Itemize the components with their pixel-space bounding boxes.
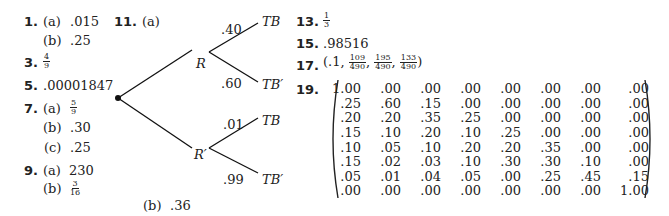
transition-matrix: 1.00 .00 .00 .00 .00 .00 .00 .00 .25 .60… (332, 82, 662, 199)
denominator: 490 (350, 63, 365, 71)
prob-Rprime-TB: .01 (223, 117, 244, 132)
leaf-TBprime-lower: TB′ (262, 172, 283, 187)
matrix-cell: .00 (361, 184, 401, 199)
matrix-row: .15 .02 .03 .10 .30 .30 .10 .00 (332, 155, 649, 170)
matrix-cell: .00 (561, 126, 601, 141)
matrix-cell: .00 (481, 170, 521, 185)
matrix-cell: .00 (361, 82, 401, 97)
matrix-cell: .00 (441, 82, 481, 97)
matrix-cell: .00 (521, 111, 561, 126)
tree-node-R: R (196, 56, 206, 71)
matrix-cell: .05 (361, 140, 401, 155)
matrix-cell: .00 (441, 184, 481, 199)
matrix-cell: .00 (601, 82, 649, 97)
matrix-cell: .00 (441, 97, 481, 112)
problem-17-value: (.1, 109490, 195490, 133490) (323, 54, 422, 71)
matrix-cell: .00 (481, 97, 521, 112)
matrix-row: .15 .10 .20 .10 .25 .00 .00 .00 (332, 126, 649, 141)
denominator: 3 (324, 21, 329, 29)
prob-Rprime-TBprime: .99 (223, 172, 244, 187)
matrix-row: .05 .01 .04 .05 .00 .25 .45 .15 (332, 170, 649, 185)
matrix-cell: .10 (441, 126, 481, 141)
matrix-row: .10 .05 .10 .20 .20 .35 .00 .00 (332, 140, 649, 155)
matrix-cell: .00 (601, 111, 649, 126)
matrix-cell: .25 (332, 97, 361, 112)
leaf-TBprime-upper: TB′ (262, 77, 283, 92)
denominator: 490 (401, 63, 416, 71)
problem-13-number: 13. (296, 14, 319, 29)
matrix-cell: .05 (332, 170, 361, 185)
denominator: 490 (375, 63, 390, 71)
matrix-cell: .10 (561, 155, 601, 170)
matrix-row: .00 .00 .00 .00 .00 .00 .00 1.00 (332, 184, 649, 199)
matrix-cell: .25 (441, 111, 481, 126)
prob-R-TB: .40 (221, 22, 242, 37)
matrix-cell: .00 (481, 184, 521, 199)
problem-15-number: 15. (296, 36, 319, 51)
matrix-cell: .30 (481, 155, 521, 170)
matrix-cell: .05 (441, 170, 481, 185)
matrix-cell: .00 (332, 184, 361, 199)
matrix-cell: .00 (401, 82, 441, 97)
leaf-TB-upper: TB (262, 14, 280, 29)
matrix-cell: .15 (332, 126, 361, 141)
matrix-cell: .60 (361, 97, 401, 112)
matrix-cell: .35 (521, 140, 561, 155)
matrix-cell: .00 (601, 126, 649, 141)
matrix-cell: .20 (401, 126, 441, 141)
leaf-TB-lower: TB (262, 113, 280, 128)
vector-open: (.1, (323, 54, 345, 69)
prob-R-TBprime: .60 (221, 76, 242, 91)
matrix-cell: .45 (561, 170, 601, 185)
matrix-cell: .10 (441, 155, 481, 170)
tree-node-R-prime: R′ (194, 147, 207, 162)
matrix-cell: .00 (481, 82, 521, 97)
matrix-cell: .10 (361, 126, 401, 141)
matrix-cell: .20 (481, 140, 521, 155)
matrix-cell: .10 (332, 140, 361, 155)
matrix-cell: .00 (561, 97, 601, 112)
matrix-cell: .00 (601, 97, 649, 112)
problem-19-number: 19. (296, 82, 319, 97)
matrix-cell: .00 (561, 111, 601, 126)
problem-13-value: 13 (323, 12, 330, 29)
matrix-cell: 1.00 (601, 184, 649, 199)
matrix-row: .25 .60 .15 .00 .00 .00 .00 .00 (332, 97, 649, 112)
matrix-cell: .00 (401, 184, 441, 199)
matrix-cell: .00 (561, 184, 601, 199)
matrix-cell: .00 (561, 140, 601, 155)
matrix-cell: .02 (361, 155, 401, 170)
vector-close: ) (417, 54, 422, 69)
matrix-cell: .35 (401, 111, 441, 126)
matrix-row: 1.00 .00 .00 .00 .00 .00 .00 .00 (332, 82, 649, 97)
matrix-cell: .15 (601, 170, 649, 185)
matrix-cell: .00 (561, 82, 601, 97)
matrix-cell: .30 (521, 155, 561, 170)
matrix-cell: .00 (521, 126, 561, 141)
matrix-cell: 1.00 (332, 82, 361, 97)
matrix-cell: .00 (521, 97, 561, 112)
matrix-cell: .20 (361, 111, 401, 126)
matrix-cell: .25 (481, 126, 521, 141)
problem-17-number: 17. (296, 58, 319, 73)
matrix-cell: .03 (401, 155, 441, 170)
matrix-cell: .01 (361, 170, 401, 185)
matrix-cell: .20 (441, 140, 481, 155)
matrix-cell: .00 (521, 82, 561, 97)
matrix-cell: .00 (601, 155, 649, 170)
matrix-cell: .15 (401, 97, 441, 112)
matrix-cell: .00 (521, 184, 561, 199)
matrix-cell: .10 (401, 140, 441, 155)
matrix-cell: .25 (521, 170, 561, 185)
matrix-cell: .20 (332, 111, 361, 126)
problem-15-value: .98516 (323, 36, 369, 51)
matrix-cell: .00 (601, 140, 649, 155)
problem-11b-label: (b) (143, 198, 161, 213)
problem-11b-value: .36 (170, 198, 191, 213)
matrix-row: .20 .20 .35 .25 .00 .00 .00 .00 (332, 111, 649, 126)
matrix-cell: .00 (481, 111, 521, 126)
matrix-cell: .04 (401, 170, 441, 185)
matrix-cell: .15 (332, 155, 361, 170)
